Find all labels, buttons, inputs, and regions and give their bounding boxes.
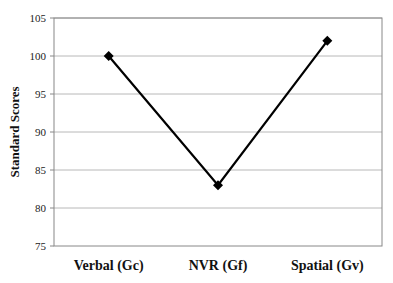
x-category-label: Verbal (Gc)	[74, 258, 144, 274]
x-category-label: Spatial (Gv)	[291, 258, 364, 274]
y-tick-label: 75	[35, 240, 47, 252]
y-tick-label: 80	[35, 202, 47, 214]
x-axis-categories: Verbal (Gc)NVR (Gf)Spatial (Gv)	[74, 258, 364, 274]
gridlines	[54, 18, 382, 208]
y-tick-label: 100	[30, 50, 47, 62]
data-series	[104, 36, 333, 190]
y-axis-label: Standard Scores	[7, 86, 22, 177]
x-category-label: NVR (Gf)	[189, 258, 248, 274]
y-axis-ticks: 7580859095100105	[30, 12, 55, 252]
y-tick-label: 85	[35, 164, 47, 176]
y-tick-label: 105	[30, 12, 47, 24]
y-tick-label: 90	[35, 126, 47, 138]
line-chart: 7580859095100105 Verbal (Gc)NVR (Gf)Spat…	[0, 0, 393, 283]
y-tick-label: 95	[35, 88, 47, 100]
series-line	[109, 41, 328, 185]
